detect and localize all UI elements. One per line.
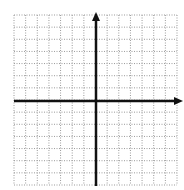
y-axis-arrow-icon xyxy=(92,12,100,21)
coordinate-plane xyxy=(0,0,184,190)
axes xyxy=(14,12,183,186)
x-axis-arrow-icon xyxy=(174,97,183,105)
coordinate-grid-diagram xyxy=(0,0,184,190)
